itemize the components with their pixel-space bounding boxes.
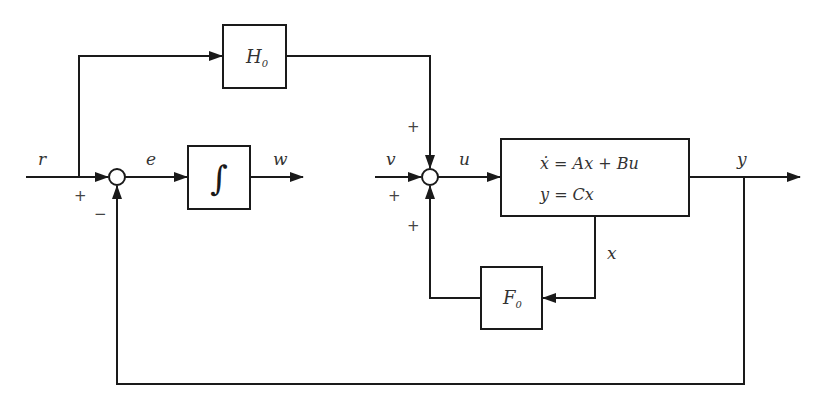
sum2-top-plus-sign: + xyxy=(407,118,420,136)
state-equation: ẋ = Ax + Bu xyxy=(540,154,639,173)
h0-label: H xyxy=(245,46,262,67)
plant-block: ẋ = Ax + Bu y = Cx xyxy=(501,139,689,216)
sum1-minus-sign: − xyxy=(94,205,107,223)
label-w: w xyxy=(273,149,288,169)
label-u: u xyxy=(459,149,470,169)
state-feedback-line xyxy=(430,186,481,298)
label-e: e xyxy=(146,149,156,169)
sum2-left-plus-sign: + xyxy=(388,187,401,205)
h0-output-line xyxy=(286,56,430,168)
h0-block: H0 xyxy=(223,25,286,88)
label-r: r xyxy=(38,149,47,169)
sum1-plus-sign: + xyxy=(74,187,87,205)
summing-junction-2 xyxy=(422,169,438,185)
signal-x-line xyxy=(543,216,595,298)
integrator-block: ∫ xyxy=(188,146,250,209)
label-y: y xyxy=(736,149,747,169)
output-equation: y = Cx xyxy=(539,185,594,204)
block-diagram: H0 ∫ ẋ = Ax + Bu y = Cx F0 r e w v u y x xyxy=(0,0,817,412)
label-x: x xyxy=(607,243,617,263)
label-v: v xyxy=(386,149,396,169)
integral-symbol: ∫ xyxy=(210,158,228,198)
summing-junction-1 xyxy=(109,169,125,185)
sum2-bottom-plus-sign: + xyxy=(407,217,420,235)
f0-block: F0 xyxy=(481,267,542,329)
